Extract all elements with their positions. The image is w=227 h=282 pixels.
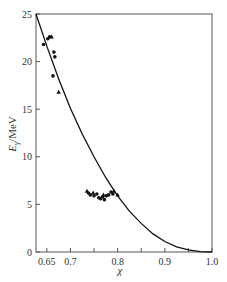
y-tick-label: 10 bbox=[22, 151, 32, 162]
x-tick-label: 1.0 bbox=[206, 256, 219, 267]
y-tick-label: 20 bbox=[22, 56, 32, 67]
y-tick-label: 15 bbox=[22, 104, 32, 115]
circle-marker bbox=[107, 193, 111, 197]
y-axis-label: Eγ/MeV bbox=[6, 116, 21, 153]
circle-marker bbox=[52, 50, 56, 54]
triangle-marker bbox=[101, 192, 105, 196]
x-tick-label: 0.7 bbox=[64, 256, 77, 267]
triangle-marker bbox=[112, 189, 116, 193]
y-tick-label: 25 bbox=[22, 9, 32, 20]
y-axis-ticks: 0510152025 bbox=[22, 9, 40, 258]
circle-marker bbox=[42, 43, 46, 47]
x-tick-label: 0.65 bbox=[38, 256, 56, 267]
circle-marker bbox=[51, 74, 55, 78]
triangle-marker bbox=[85, 189, 89, 193]
circle-marker bbox=[103, 198, 107, 202]
circle-marker bbox=[95, 192, 99, 196]
y-tick-label: 0 bbox=[27, 247, 32, 258]
circle-marker bbox=[53, 55, 57, 59]
triangle-marker bbox=[56, 90, 60, 94]
data-points bbox=[42, 34, 120, 201]
theory-curve bbox=[36, 14, 212, 252]
x-tick-label: 0.9 bbox=[159, 256, 172, 267]
triangle-marker bbox=[91, 191, 95, 195]
y-tick-label: 5 bbox=[27, 199, 32, 210]
chart: 0.650.70.80.91.0 0510152025 χ Eγ/MeV bbox=[0, 0, 227, 282]
plot-frame bbox=[36, 14, 212, 252]
y-axis-label-unit: /MeV bbox=[6, 116, 18, 142]
